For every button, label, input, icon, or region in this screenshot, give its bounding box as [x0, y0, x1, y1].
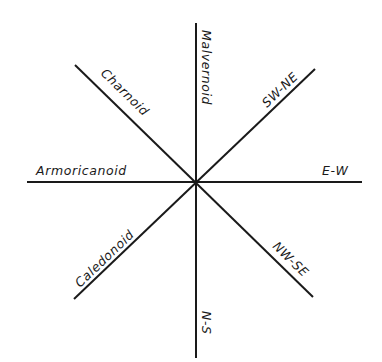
label-n-s: N-S [199, 311, 214, 335]
label-charnoid: Charnoid [98, 65, 152, 119]
label-armoricanoid: Armoricanoid [35, 163, 127, 178]
label-nw-se: NW-SE [270, 238, 312, 280]
label-malvernoid: Malvernoid [199, 30, 214, 105]
label-caledonoid: Caledonoid [72, 227, 137, 290]
label-e-w: E-W [322, 163, 348, 178]
orientation-diagram: Malvernoid SW-NE Charnoid Armoricanoid E… [0, 0, 382, 362]
